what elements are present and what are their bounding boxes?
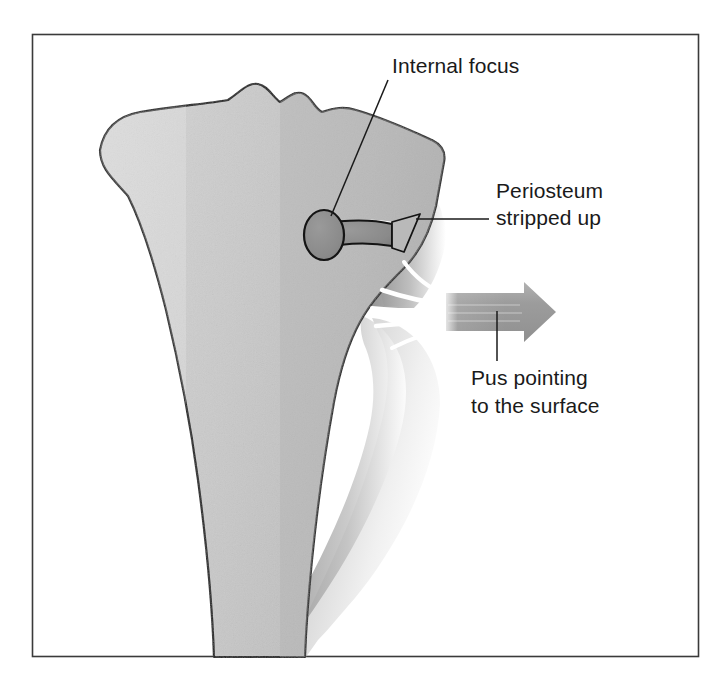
figure-root: Internal focus Periosteum stripped up Pu… bbox=[0, 0, 725, 690]
label-periosteum-line2: stripped up bbox=[496, 206, 601, 229]
label-pus-line2: to the surface bbox=[471, 394, 600, 417]
label-periosteum-line1: Periosteum bbox=[496, 179, 603, 202]
label-internal-focus: Internal focus bbox=[392, 54, 519, 77]
osteomyelitis-diagram: Internal focus Periosteum stripped up Pu… bbox=[0, 0, 725, 690]
label-pus-line1: Pus pointing bbox=[471, 366, 588, 389]
abscess-cavity bbox=[304, 210, 344, 260]
